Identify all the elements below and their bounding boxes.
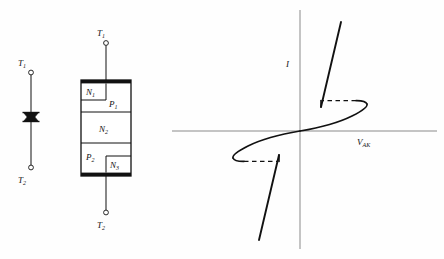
curve-forward-on-state	[321, 22, 341, 107]
x-axis-label: VAK	[357, 137, 371, 148]
iv-characteristic-chart: I VAK	[172, 10, 437, 249]
symbol-terminal-bottom-node	[29, 165, 34, 170]
structure-terminal-top-node	[104, 41, 109, 46]
y-axis-label: I	[285, 59, 290, 69]
symbol-terminal-top-node	[29, 70, 34, 75]
curve-forward-breakover-knee	[356, 101, 367, 104]
four-layer-cross-section: T1 N1 P1 N2 P2 N3 T2	[81, 28, 131, 231]
structure-contact-top	[81, 80, 131, 83]
symbol-terminal-top-label: T1	[18, 58, 26, 69]
figure-canvas: T1 T2 T1 N1 P1 N2 P2	[0, 0, 444, 259]
structure-contact-bottom	[81, 173, 131, 176]
curve-reverse-breakover-knee	[233, 158, 244, 161]
diac-schematic-symbol: T1 T2	[18, 58, 40, 186]
curve-reverse-blocking	[233, 131, 300, 158]
structure-terminal-bottom-label: T2	[97, 220, 105, 231]
structure-terminal-bottom-node	[104, 210, 109, 215]
curve-reverse-on-state	[259, 155, 279, 240]
symbol-terminal-bottom-label: T2	[18, 175, 26, 186]
structure-terminal-top-label: T1	[97, 28, 105, 39]
curve-forward-blocking	[300, 104, 367, 131]
